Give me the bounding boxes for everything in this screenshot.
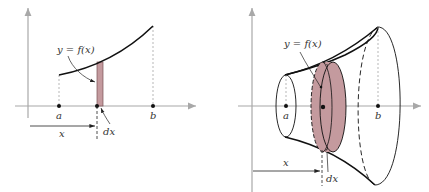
right-figure-solid-of-revolution: y = f(x) a b x dx — [238, 8, 421, 192]
curve-label: y = f(x) — [283, 38, 322, 49]
point-b — [151, 104, 155, 108]
pointer-dot — [320, 86, 323, 89]
curve-label: y = f(x) — [56, 44, 95, 55]
label-a: a — [56, 110, 62, 121]
point-b — [376, 104, 380, 108]
area-strip — [97, 62, 103, 106]
point-a — [57, 104, 61, 108]
volume-of-revolution-diagram: y = f(x) a b x dx — [0, 0, 429, 192]
label-b: b — [150, 110, 156, 121]
dx-tick — [327, 152, 328, 172]
label-dx: dx — [326, 173, 338, 184]
label-x: x — [283, 157, 289, 168]
left-figure-area-strip: y = f(x) a b x dx — [15, 8, 196, 140]
dx-pointer — [101, 108, 110, 124]
label-b: b — [375, 110, 381, 121]
point-a — [284, 104, 288, 108]
label-dx: dx — [103, 126, 115, 137]
point-x — [321, 105, 325, 109]
label-a: a — [283, 110, 289, 121]
label-x: x — [59, 128, 65, 139]
